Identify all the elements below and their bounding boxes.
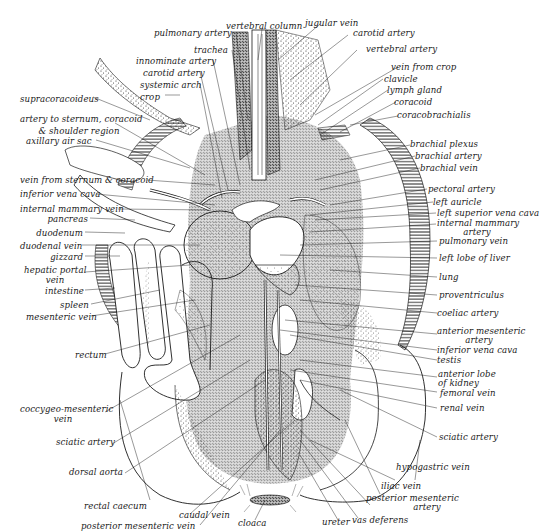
label-iliac-vein: iliac vein [381,482,421,491]
label-vein-from-crop: vein from crop [391,63,456,72]
label-duodenum: duodenum [20,229,83,238]
label-vertebral-artery: vertebral artery [366,45,437,54]
label-carotid-artery-left: carotid artery [143,69,205,78]
label-caudal-vein: caudal vein [179,511,230,520]
label-internal-mammary-vein: internal mammary vein [20,205,124,214]
label-cloaca: cloaca [238,519,266,528]
label-anterior-lobe-of-kidney: anterior lobe of kidney [438,370,496,387]
label-vas-deferens: vas deferens [352,516,408,525]
label-coccygeo-line1: coccygeo-mesenteric [20,405,106,414]
label-post-mes-artery-line1: posterior mesenteric [366,494,458,503]
label-spleen: spleen [20,301,89,310]
label-sciatic-artery-left: sciatic artery [56,438,115,447]
label-gizzard: gizzard [20,253,83,262]
label-hepatic-portal-vein: hepatic portal vein [24,266,86,284]
label-axillary-air-sac: axillary air sac [26,137,92,146]
label-sciatic-artery-right: sciatic artery [439,433,498,442]
label-rectal-caecum: rectal caecum [84,502,147,511]
label-left-superior-vena-cava: left superior vena cava [437,209,539,218]
label-left-auricle: left auricle [433,198,482,207]
label-supracoracoideus: supracoracoideus [20,95,99,104]
label-anterior-mesenteric-artery: anterior mesenteric artery [437,327,521,344]
label-hypogastric-vein: hypogastric vein [396,463,470,472]
label-vein-from-sternum: vein from sternum & coracoid [20,176,154,185]
label-posterior-mesenteric-vein: posterior mesenteric vein [81,522,195,531]
label-intestine: intestine [20,287,84,296]
label-renal-vein: renal vein [440,404,485,413]
label-hepatic-portal-line2: vein [24,276,86,285]
label-testis: testis [437,356,461,365]
label-ant-mes-artery-line2: artery [437,336,521,345]
label-ant-lobe-kidney-line2: of kidney [438,379,496,388]
label-internal-mammary-artery: internal mammary artery [437,219,517,236]
label-duodenal-vein: duodenal vein [20,242,82,251]
label-lung: lung [439,273,459,282]
label-dorsal-aorta: dorsal aorta [69,468,123,477]
label-artery-to-sternum-line1: artery to sternum, coracoid [20,115,138,124]
label-pulmonary-vein: pulmonary vein [439,237,508,246]
label-vertebral-column: vertebral column [226,22,302,31]
label-rectum: rectum [75,351,107,360]
label-left-lobe-of-liver: left lobe of liver [439,254,510,263]
label-hepatic-portal-line1: hepatic portal [24,266,86,275]
label-trachea: trachea [194,46,228,55]
label-femoral-vein: femoral vein [440,389,496,398]
label-inferior-vena-cava-left: inferior vena cava [20,190,100,199]
label-clavicle: clavicle [384,75,418,84]
label-brachial-vein: brachial vein [420,164,478,173]
label-pectoral-artery: pectoral artery [428,185,495,194]
label-int-mam-artery-line2: artery [437,228,517,237]
label-jugular-vein: jugular vein [305,19,358,28]
label-lymph-gland: lymph gland [387,86,442,95]
label-coccygeo-line2: vein [20,415,106,424]
label-proventriculus: proventriculus [439,291,504,300]
label-inferior-vena-cava-right: inferior vena cava [437,346,517,355]
label-coeliac-artery: coeliac artery [437,309,498,318]
label-pulmonary-artery: pulmonary artery [154,29,232,38]
label-innominate-artery: innominate artery [136,57,216,66]
label-coracobrachialis: coracobrachialis [397,111,471,120]
label-post-mes-artery-line2: artery [366,503,458,512]
label-carotid-artery-right: carotid artery [353,29,415,38]
label-crop: crop [140,93,160,102]
label-artery-to-sternum: artery to sternum, coracoid & shoulder r… [20,115,138,135]
label-artery-to-sternum-line2: & shoulder region [20,127,138,136]
label-ureter: ureter [322,518,350,527]
label-coccygeo-mesenteric-vein: coccygeo-mesenteric vein [20,405,106,423]
label-brachial-artery: brachial artery [415,152,482,161]
label-mesenteric-vein: mesenteric vein [26,313,97,322]
anatomy-diagram: vertebral column jugular vein pulmonary … [0,0,545,532]
label-posterior-mesenteric-artery: posterior mesenteric artery [366,494,458,511]
label-brachial-plexus: brachial plexus [410,140,478,149]
label-systemic-arch: systemic arch [140,81,202,90]
label-coracoid: coracoid [394,98,432,107]
label-pancreas: pancreas [20,215,88,224]
